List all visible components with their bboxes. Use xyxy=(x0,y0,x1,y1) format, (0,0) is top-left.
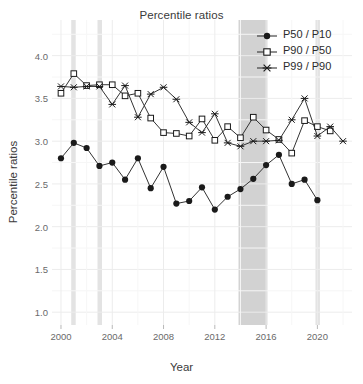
data-point xyxy=(71,140,77,146)
data-point xyxy=(122,93,128,99)
legend-item[interactable]: P50 / P10 xyxy=(256,26,331,42)
data-point xyxy=(212,138,218,144)
legend-item[interactable]: P90 / P50 xyxy=(256,42,331,58)
data-point xyxy=(71,71,77,77)
legend-item[interactable]: P99 / P90 xyxy=(256,58,331,74)
data-point xyxy=(289,150,295,156)
data-point xyxy=(301,177,307,183)
data-point xyxy=(315,124,321,130)
data-point xyxy=(148,185,154,191)
chart-legend: P50 / P10 P90 / P50 P99 / P90 xyxy=(256,26,331,74)
data-point xyxy=(186,198,192,204)
percentile-ratios-chart: Percentile ratios Percentile ratios Year… xyxy=(0,0,363,384)
data-point xyxy=(225,194,231,200)
data-point xyxy=(173,96,181,102)
data-point xyxy=(263,127,269,133)
data-point xyxy=(161,130,167,136)
legend-key-open-square-icon xyxy=(256,44,278,56)
data-point xyxy=(186,133,192,139)
recession-band xyxy=(71,20,75,325)
data-point xyxy=(58,155,64,161)
data-point xyxy=(314,197,320,203)
legend-label-p99-p90: P99 / P90 xyxy=(283,60,331,72)
data-point xyxy=(58,90,64,96)
data-point xyxy=(147,91,155,97)
data-point xyxy=(96,163,102,169)
data-point xyxy=(135,155,141,161)
data-point xyxy=(135,90,141,96)
data-point xyxy=(109,159,115,165)
data-point xyxy=(212,206,218,212)
data-point xyxy=(302,118,308,124)
legend-key-filled-circle-icon xyxy=(256,28,278,40)
data-point xyxy=(237,186,243,192)
data-point xyxy=(238,135,244,141)
data-point xyxy=(276,152,282,158)
data-point xyxy=(199,184,205,190)
data-point xyxy=(301,95,309,101)
data-point xyxy=(225,124,231,130)
data-point xyxy=(122,177,128,183)
data-point xyxy=(199,116,205,122)
data-point xyxy=(84,145,90,151)
data-point xyxy=(148,115,154,121)
data-point xyxy=(173,200,179,206)
data-point xyxy=(160,164,166,170)
legend-label-p50-p10: P50 / P10 xyxy=(283,28,331,40)
data-point xyxy=(84,83,90,89)
legend-key-asterisk-icon xyxy=(256,60,278,72)
data-point xyxy=(174,131,180,137)
data-point xyxy=(250,176,256,182)
data-point xyxy=(250,114,256,120)
data-point xyxy=(263,162,269,168)
legend-label-p90-p50: P90 / P50 xyxy=(283,44,331,56)
recession-band xyxy=(98,20,102,325)
data-point xyxy=(121,83,129,89)
data-point xyxy=(198,130,206,136)
data-point xyxy=(289,181,295,187)
data-point xyxy=(109,82,115,88)
